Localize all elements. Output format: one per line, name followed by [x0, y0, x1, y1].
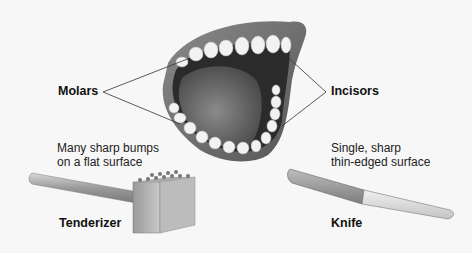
tenderizer-description-line1: Many sharp bumps: [57, 141, 159, 155]
tenderizer-head-side: [160, 177, 195, 233]
tenderizer-label: Tenderizer: [59, 216, 121, 230]
knife-illustration: [288, 169, 454, 219]
incisors-label: Incisors: [331, 84, 379, 98]
molars-label: Molars: [58, 84, 98, 98]
tenderizer-head-front: [133, 182, 160, 233]
knife-description-line2: thin-edged surface: [331, 155, 430, 169]
knife-description-line1: Single, sharp: [331, 141, 401, 155]
open-mouth-illustration: [163, 21, 307, 161]
knife-label: Knife: [331, 216, 362, 230]
tenderizer-handle: [29, 173, 138, 203]
diagram-canvas: Molars Incisors Many sharp bumps on a fl…: [0, 0, 472, 253]
knife-blade: [362, 190, 454, 219]
tenderizer-description-line2: on a flat surface: [57, 155, 142, 169]
knife-handle: [288, 169, 364, 204]
